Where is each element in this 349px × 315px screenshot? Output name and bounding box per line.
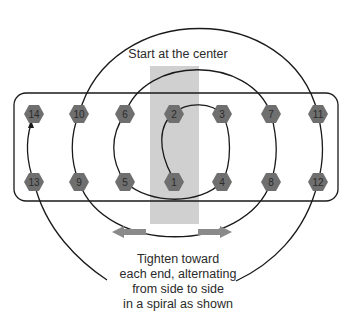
nut-6: 6 xyxy=(115,105,135,123)
nut-10: 10 xyxy=(69,105,89,123)
nut-label: 1 xyxy=(171,177,177,188)
nut-label: 4 xyxy=(219,177,225,188)
caption-line-1: Tighten toward xyxy=(137,252,219,266)
bolt-tightening-sequence-diagram: 14 10 6 2 3 7 11 13 9 5 1 4 8 12 Start a… xyxy=(0,0,349,315)
nut-label: 14 xyxy=(28,109,40,120)
nut-13: 13 xyxy=(24,173,44,191)
nut-label: 11 xyxy=(313,109,324,120)
left-arrow xyxy=(112,226,146,238)
nut-label: 9 xyxy=(76,177,82,188)
caption-line-2: each end, alternating xyxy=(120,267,237,281)
nut-label: 2 xyxy=(171,109,177,120)
nut-row-bottom: 13 9 5 1 4 8 12 xyxy=(24,173,328,191)
nut-label: 6 xyxy=(122,109,128,120)
caption-line-4: in a spiral as shown xyxy=(123,297,233,311)
nut-label: 8 xyxy=(268,177,274,188)
nut-14: 14 xyxy=(24,105,44,123)
nut-row-top: 14 10 6 2 3 7 11 xyxy=(24,105,328,123)
nut-label: 13 xyxy=(28,177,40,188)
nut-11: 11 xyxy=(308,105,328,123)
nut-12: 12 xyxy=(308,173,328,191)
nut-3: 3 xyxy=(212,105,232,123)
nut-label: 5 xyxy=(122,177,128,188)
nut-7: 7 xyxy=(261,105,281,123)
nut-label: 12 xyxy=(312,177,324,188)
nut-5: 5 xyxy=(115,173,135,191)
caption: Tighten toward each end, alternating fro… xyxy=(120,252,237,311)
caption-line-3: from side to side xyxy=(132,282,224,296)
nut-label: 10 xyxy=(73,109,85,120)
nut-label: 3 xyxy=(219,109,225,120)
nut-8: 8 xyxy=(261,173,281,191)
start-label: Start at the center xyxy=(128,47,227,61)
center-band xyxy=(150,66,199,224)
right-arrow xyxy=(198,226,232,238)
nut-label: 7 xyxy=(268,109,274,120)
nut-9: 9 xyxy=(69,173,89,191)
